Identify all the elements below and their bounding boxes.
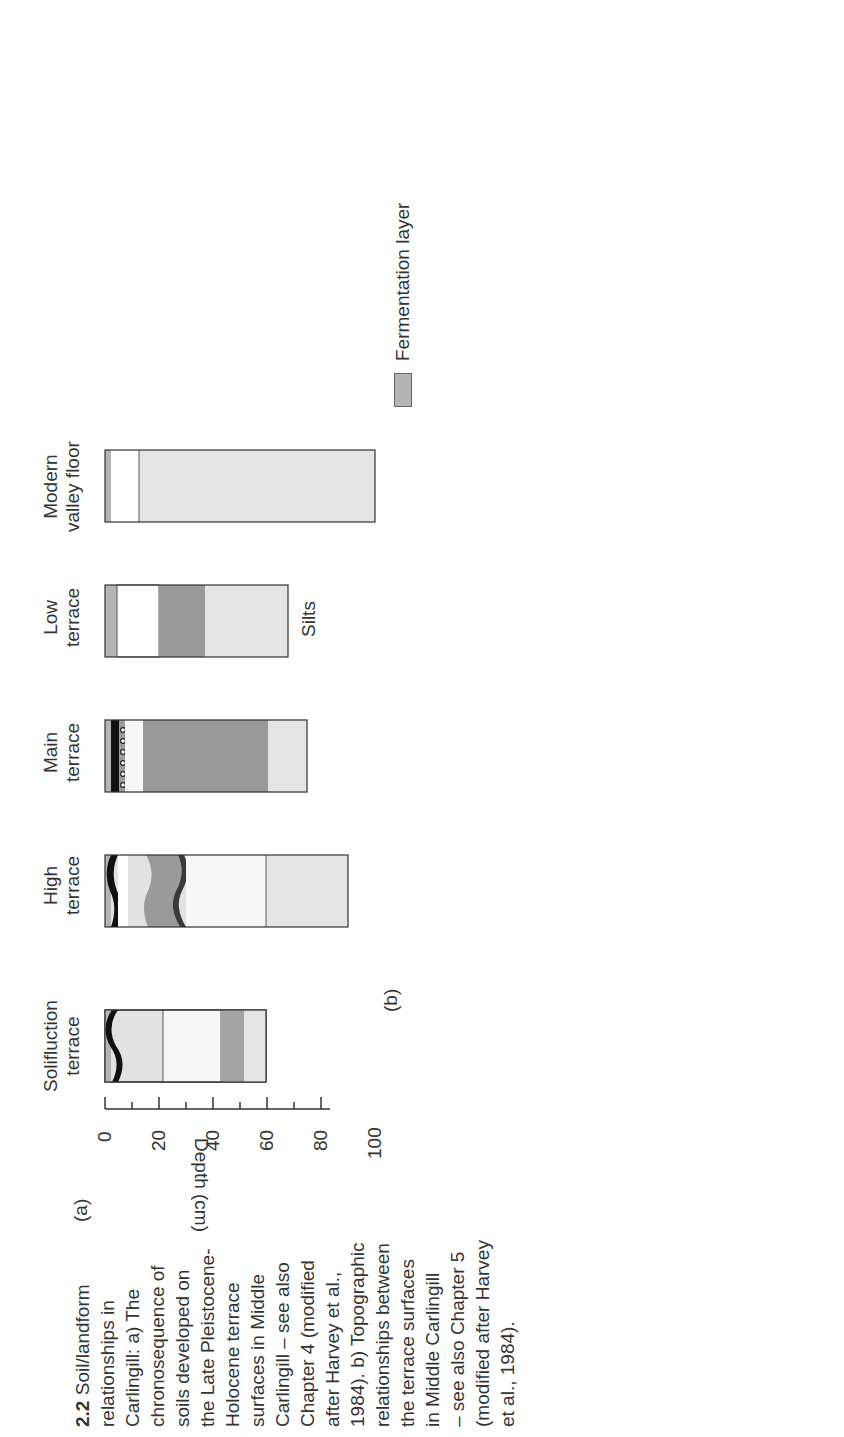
silts-label: Silts (298, 601, 320, 637)
profile-title-main: Mainterrace (40, 723, 84, 782)
profile-modern-valley-floor (105, 450, 375, 522)
profile-title-modern: Modernvalley floor (40, 441, 84, 532)
profile-title-low: Lowterrace (40, 588, 84, 647)
profile-title-high: Highterrace (40, 856, 84, 915)
profile-columns (0, 0, 844, 1437)
legend-item: Fermentation layer (388, 203, 418, 407)
profile-low-terrace (105, 585, 288, 657)
panel-b-label: (b) (380, 989, 402, 1012)
profile-solifluction-terrace (105, 1010, 266, 1082)
profile-main-terrace (105, 720, 307, 792)
profile-high-terrace (105, 855, 348, 927)
profile-title-solifluction: Solifluctionterrace (40, 1000, 84, 1092)
figure-page: 2.2 Soil/landform relationships in Carli… (0, 0, 844, 1437)
